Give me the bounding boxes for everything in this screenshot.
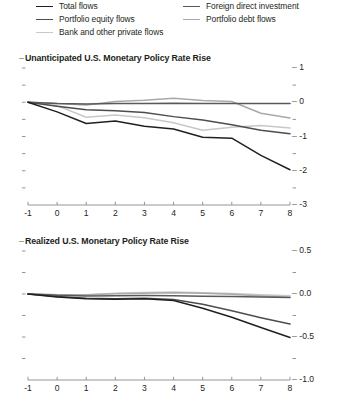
y-axis-label-text: 0.0 bbox=[299, 288, 311, 298]
y-axis-tick-dash: – bbox=[292, 165, 297, 175]
legend-label-total-flows: Total flows bbox=[59, 2, 98, 11]
legend-swatch-portfolio-equity-flows bbox=[36, 19, 53, 20]
y-axis-label-text: -1 bbox=[299, 131, 307, 141]
y-axis-label-text: 0.5 bbox=[299, 245, 311, 255]
x-axis-label: 4 bbox=[167, 208, 181, 218]
legend-item-portfolio-debt-flows: Portfolio debt flows bbox=[183, 15, 276, 24]
legend-swatch-bank-and-other-private-flows bbox=[36, 32, 53, 33]
legend-swatch-foreign-direct-investment bbox=[183, 6, 200, 7]
x-axis-label: 6 bbox=[225, 208, 239, 218]
chart-panel-unanticipated: – Unanticipated U.S. Monetary Policy Rat… bbox=[0, 50, 338, 230]
legend-label-portfolio-debt-flows: Portfolio debt flows bbox=[206, 15, 276, 24]
legend-item-foreign-direct-investment: Foreign direct investment bbox=[183, 2, 299, 11]
y-axis-label: –-2 bbox=[292, 165, 307, 175]
y-axis-label: –0 bbox=[292, 96, 304, 106]
legend-item-portfolio-equity-flows: Portfolio equity flows bbox=[36, 15, 135, 24]
y-axis-tick-dash: – bbox=[292, 62, 297, 72]
x-axis-label: 8 bbox=[283, 383, 297, 393]
series-line-portfolio-equity-flows bbox=[28, 102, 290, 134]
legend-label-bank-and-other-private-flows: Bank and other private flows bbox=[59, 28, 163, 37]
y-axis-label-text: -0.5 bbox=[299, 331, 314, 341]
y-axis-tick-dash: – bbox=[292, 331, 297, 341]
x-axis-label: 7 bbox=[254, 383, 268, 393]
x-axis-label: 1 bbox=[79, 383, 93, 393]
y-axis-label: –0.5 bbox=[292, 245, 311, 255]
legend-swatch-total-flows bbox=[36, 6, 53, 7]
x-axis-label: 2 bbox=[108, 208, 122, 218]
y-axis-label: –1 bbox=[292, 62, 304, 72]
chart-svg-top bbox=[0, 50, 338, 230]
x-axis-label: 7 bbox=[254, 208, 268, 218]
x-axis-label: 5 bbox=[196, 208, 210, 218]
y-axis-label: –-1 bbox=[292, 131, 307, 141]
legend-item-bank-and-other-private-flows: Bank and other private flows bbox=[36, 28, 163, 37]
y-axis-label-text: -1.0 bbox=[299, 374, 314, 384]
y-axis-tick-dash: – bbox=[292, 96, 297, 106]
x-axis-label: 2 bbox=[108, 383, 122, 393]
x-axis-label: 5 bbox=[196, 383, 210, 393]
y-axis-tick-dash: – bbox=[292, 131, 297, 141]
legend-label-foreign-direct-investment: Foreign direct investment bbox=[206, 2, 299, 11]
chart-panel-realized: – Realized U.S. Monetary Policy Rate Ris… bbox=[0, 233, 338, 409]
x-axis-label: 6 bbox=[225, 383, 239, 393]
series-line-portfolio-equity-flows bbox=[28, 294, 290, 324]
y-axis-label-text: 0 bbox=[299, 96, 304, 106]
y-axis-label-text: -3 bbox=[299, 199, 307, 209]
x-axis-label: 0 bbox=[50, 208, 64, 218]
series-line-foreign-direct-investment bbox=[28, 102, 290, 104]
chart-legend: Total flows Portfolio equity flows Bank … bbox=[0, 0, 338, 46]
plot-area-realized: –0.5–0.0–-0.5–-1.0-1012345678 bbox=[0, 233, 338, 409]
y-axis-tick-dash: – bbox=[292, 245, 297, 255]
series-line-total-flows bbox=[28, 102, 290, 169]
y-axis-tick-dash: – bbox=[292, 288, 297, 298]
plot-area-unanticipated: –1–0–-1–-2–-3-1012345678 bbox=[0, 50, 338, 230]
legend-swatch-portfolio-debt-flows bbox=[183, 19, 200, 20]
legend-item-total-flows: Total flows bbox=[36, 2, 98, 11]
y-axis-label: –0.0 bbox=[292, 288, 311, 298]
x-axis-label: 3 bbox=[137, 208, 151, 218]
y-axis-label: –-0.5 bbox=[292, 331, 314, 341]
x-axis-label: 4 bbox=[167, 383, 181, 393]
x-axis-label: -1 bbox=[21, 208, 35, 218]
y-axis-label-text: -2 bbox=[299, 165, 307, 175]
x-axis-label: 3 bbox=[137, 383, 151, 393]
x-axis-label: 8 bbox=[283, 208, 297, 218]
x-axis-label: -1 bbox=[21, 383, 35, 393]
y-axis-label-text: 1 bbox=[299, 62, 304, 72]
legend-label-portfolio-equity-flows: Portfolio equity flows bbox=[59, 15, 135, 24]
x-axis-label: 0 bbox=[50, 383, 64, 393]
x-axis-label: 1 bbox=[79, 208, 93, 218]
